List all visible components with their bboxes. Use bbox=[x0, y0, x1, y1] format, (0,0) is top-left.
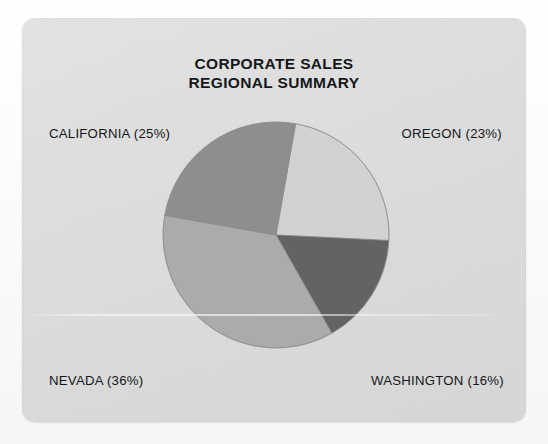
pie-chart-plot-area bbox=[22, 18, 526, 422]
slice-label-oregon: OREGON (23%) bbox=[402, 126, 502, 141]
pie-slice-california bbox=[165, 122, 296, 235]
pie-chart-svg bbox=[22, 18, 526, 422]
pie-slice-group bbox=[163, 122, 389, 348]
slice-label-nevada: NEVADA (36%) bbox=[49, 373, 143, 388]
pie-slice-oregon bbox=[276, 124, 389, 241]
slice-label-california: CALIFORNIA (25%) bbox=[49, 126, 170, 141]
slice-label-washington: WASHINGTON (16%) bbox=[371, 373, 504, 388]
pie-chart-card: CORPORATE SALES REGIONAL SUMMARY CALIFOR… bbox=[22, 18, 526, 422]
chart-photograph: CORPORATE SALES REGIONAL SUMMARY CALIFOR… bbox=[0, 0, 548, 444]
